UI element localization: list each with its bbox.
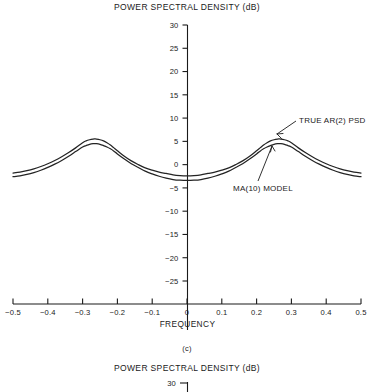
y-ticklabel-20: 20: [170, 67, 179, 76]
y-ticklabel-10: 10: [170, 114, 179, 123]
next-panel-ticklabel-30: 30: [167, 379, 176, 388]
y-ticklabel--20: −20: [165, 254, 178, 263]
x-ticklabel-0.3: 0.3: [286, 308, 297, 317]
annotation-true-ar2: TRUE AR(2) PSD: [277, 116, 366, 139]
y-ticklabel-5: 5: [174, 137, 178, 146]
x-ticklabel-0.1: 0.1: [216, 308, 227, 317]
y-ticklabel-15: 15: [170, 91, 179, 100]
annotation-ma10: MA(10) MODEL: [233, 146, 293, 193]
annotation-true-ar2-label: TRUE AR(2) PSD: [299, 116, 366, 125]
x-ticklabel-0.4: 0.4: [321, 308, 332, 317]
x-ticklabel-0.2: 0.2: [251, 308, 262, 317]
y-ticklabel--25: −25: [165, 277, 178, 286]
psd-plot: 302520151050−5−10−15−20−25 −0.5−0.4−0.3−…: [0, 0, 374, 392]
y-axis-ticklabels: 302520151050−5−10−15−20−25: [165, 21, 178, 286]
y-ticklabel-30: 30: [170, 21, 179, 30]
x-axis-ticks: [13, 299, 361, 305]
next-panel-title: POWER SPECTRAL DENSITY (dB): [0, 363, 374, 373]
y-ticklabel-25: 25: [170, 44, 179, 53]
x-axis-ticklabels: −0.5−0.4−0.3−0.2−0.100.10.20.30.40.5: [5, 308, 366, 317]
x-ticklabel--0.3: −0.3: [75, 308, 91, 317]
x-ticklabel--0.1: −0.1: [144, 308, 160, 317]
x-ticklabel--0.2: −0.2: [110, 308, 126, 317]
x-ticklabel-0.5: 0.5: [355, 308, 366, 317]
annotation-ma10-label: MA(10) MODEL: [233, 184, 293, 193]
y-ticklabel-0: 0: [174, 160, 178, 169]
x-ticklabel--0.5: −0.5: [5, 308, 21, 317]
y-axis-ticks: [183, 25, 188, 281]
y-ticklabel--5: −5: [169, 184, 178, 193]
figure-panel-c: POWER SPECTRAL DENSITY (dB) 302520151050…: [0, 0, 374, 392]
panel-caption: (c): [0, 344, 374, 353]
x-ticklabel--0.4: −0.4: [40, 308, 56, 317]
x-axis-name: FREQUENCY: [160, 319, 216, 329]
x-ticklabel-0: 0: [185, 308, 189, 317]
y-ticklabel--10: −10: [165, 207, 178, 216]
y-ticklabel--15: −15: [165, 230, 178, 239]
